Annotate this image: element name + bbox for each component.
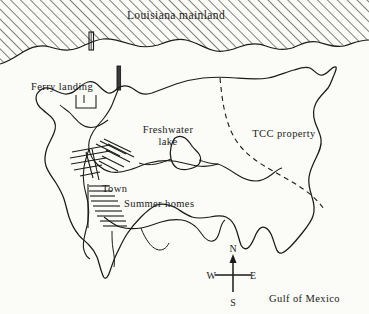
label-ferry-landing: Ferry landing xyxy=(31,81,93,93)
compass-label-north: N xyxy=(229,243,236,254)
label-freshwater-lake-line1: Freshwater xyxy=(143,124,194,135)
compass-label-west: W xyxy=(207,270,216,281)
label-summer-homes: Summer homes xyxy=(124,198,194,210)
island-inlet-shoreline xyxy=(60,90,218,259)
label-freshwater-lake: Freshwaterlake xyxy=(143,124,194,148)
label-town: Town xyxy=(102,183,127,195)
interior-shoreline xyxy=(139,159,282,181)
compass-rose xyxy=(215,254,251,292)
compass-label-east: E xyxy=(250,270,256,281)
label-gulf-of-mexico: Gulf of Mexico xyxy=(269,293,340,305)
tcc-property-boundary-line xyxy=(220,78,324,209)
label-tcc-property: TCC property xyxy=(252,128,315,140)
map-illustration xyxy=(0,0,369,314)
island-outline xyxy=(36,67,336,278)
label-louisiana-mainland: Louisiana mainland xyxy=(127,9,225,22)
label-freshwater-lake-line2: lake xyxy=(158,136,177,147)
map-figure: Louisiana mainland Ferry landing Freshwa… xyxy=(0,0,369,314)
compass-label-south: S xyxy=(230,297,236,308)
